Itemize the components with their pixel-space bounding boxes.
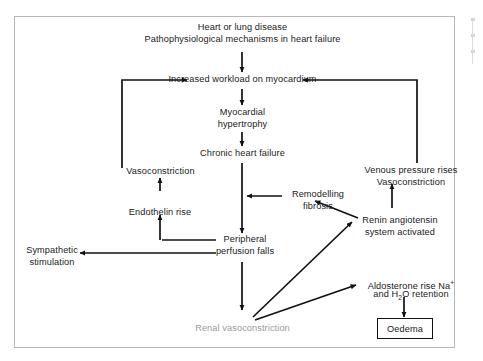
- arrow-renal-to-aldosterone: [255, 285, 356, 320]
- node-peripheral-line1: Peripheral: [214, 234, 276, 246]
- arrow-vasoconstriction-to-workload: [122, 80, 187, 168]
- node-vasoconstriction-left: Vasoconstriction: [114, 166, 207, 178]
- node-sympathetic-line1: Sympathetic: [18, 245, 86, 257]
- node-renin-line1: Renin angiotensin: [356, 215, 444, 227]
- node-oedema-label: Oedema: [387, 324, 423, 334]
- node-source-line1: Heart or lung disease: [160, 22, 325, 34]
- node-myocardial-hypertrophy-line1: Myocardial: [205, 107, 280, 119]
- diagram-page: Heart or lung disease Pathophysiological…: [0, 0, 483, 361]
- page-edge-marks: [471, 18, 481, 62]
- node-oedema-box: Oedema: [377, 318, 433, 339]
- node-venous-line2: Vasoconstriction: [358, 177, 464, 189]
- node-aldosterone-line2: and H2O retention: [358, 289, 464, 303]
- node-myocardial-hypertrophy-line2: hypertrophy: [205, 119, 280, 131]
- node-chronic-heart-failure: Chronic heart failure: [188, 148, 297, 160]
- node-renin-line2: system activated: [356, 227, 444, 239]
- node-source-line2: Pathophysiological mechanisms in heart f…: [125, 34, 360, 46]
- node-venous-line1: Venous pressure rises: [358, 165, 464, 177]
- node-peripheral-line2: perfusion falls: [210, 246, 280, 258]
- water-text-pre: and H: [373, 289, 398, 299]
- node-renal-vasoconstriction: Renal vasoconstriction: [185, 323, 300, 335]
- node-remodelling-line1: Remodelling: [286, 189, 350, 201]
- arrow-venous-to-workload: [303, 80, 417, 163]
- node-sympathetic-line2: stimulation: [18, 257, 86, 269]
- node-remodelling-line2: fibrosis: [286, 201, 350, 213]
- node-increased-workload: Increased workload on myocardium: [167, 74, 318, 86]
- node-endothelin-rise: Endothelin rise: [117, 207, 203, 219]
- sodium-superscript: +: [450, 279, 454, 286]
- water-text-post: O retention: [402, 289, 449, 299]
